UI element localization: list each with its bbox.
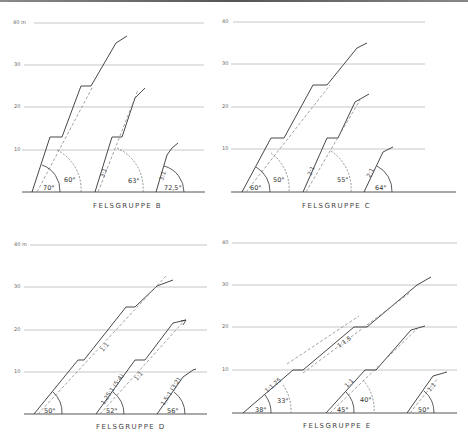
angle-label: 63° — [128, 177, 140, 185]
slope-ratio: 2:1 — [365, 167, 376, 179]
y-label-10: 10 — [14, 146, 20, 152]
angle-arc-dashed — [57, 150, 81, 192]
slope-profile — [303, 94, 369, 192]
panel-title: FELSGRUPPE C — [302, 202, 371, 210]
slope-diagram: 40 m 30 20 10 70° 60° 3:1 63° 3:1 72,5° … — [0, 0, 468, 446]
panel-title: FELSGRUPPE D — [96, 423, 166, 431]
y-label-10: 10 — [222, 145, 228, 151]
slope-ratio: 3:1 — [98, 167, 108, 179]
slope-profile — [32, 36, 127, 192]
angle-label-dashed: 33° — [277, 397, 289, 405]
angle-label: 50° — [418, 406, 430, 414]
y-label-40: 40 — [222, 239, 228, 245]
y-label-20: 20 — [222, 323, 228, 329]
angle-label: 60° — [250, 184, 262, 192]
slope-ratio: 3:1 — [157, 170, 167, 182]
y-label-40: 40 m — [13, 19, 26, 25]
slope-ratio: 1:1 — [343, 377, 355, 389]
y-label-10: 10 — [222, 366, 228, 372]
angle-label: 72,5° — [164, 184, 182, 192]
arrow-head-icon — [181, 320, 186, 325]
angle-label: 52° — [106, 407, 118, 415]
y-label-20: 20 — [222, 103, 228, 109]
slope-dashed-line — [306, 100, 360, 192]
slope-ratio-secondary: 1:1 — [132, 370, 144, 382]
slope-ratio: 1,5:1 (3:2) — [159, 376, 182, 407]
panel-c: 40 30 20 10 60° 50° 2:1 55° 2:1 64° FELS… — [222, 18, 456, 210]
y-label-30: 30 — [222, 281, 228, 287]
y-label-40: 40 — [222, 18, 228, 24]
angle-label: 64° — [375, 184, 387, 192]
angle-label: 38° — [255, 406, 267, 414]
panel-title: FELSGRUPPE B — [93, 202, 162, 210]
angle-arc-dashed — [271, 153, 289, 192]
slope-ratio: 1:1 — [98, 341, 110, 353]
y-label-10: 10 — [14, 368, 20, 374]
angle-arc-dashed — [331, 151, 351, 192]
slope-ratio-secondary: 1:1,5 — [336, 334, 353, 349]
angle-label: 56° — [167, 407, 179, 415]
panel-b: 40 m 30 20 10 70° 60° 3:1 63° 3:1 72,5° … — [13, 19, 205, 210]
y-label-20: 20 — [14, 103, 20, 109]
angle-label: 45° — [337, 406, 349, 414]
panel-d: 40 m 30 20 10 1:1 50° 1,25:1 (5:4) 1:1 5… — [14, 241, 207, 431]
slope-dashed-line — [246, 85, 330, 192]
y-label-30: 30 — [222, 60, 228, 66]
angle-arc-dashed — [117, 148, 143, 192]
y-label-30: 30 — [14, 283, 20, 289]
panel-e: 40 30 20 10 1:1,25 1:1,5 38° 33° 1:1 45°… — [222, 239, 457, 430]
slope-ratio: 1:1,25 — [263, 376, 282, 394]
panel-title: FELSGRUPPE E — [303, 422, 372, 430]
slope-profile — [242, 43, 367, 192]
y-label-40: 40 m — [14, 241, 27, 247]
angle-label: 50° — [44, 407, 56, 415]
y-label-20: 20 — [14, 326, 20, 332]
angle-label-dashed: 60° — [64, 176, 76, 184]
y-label-30: 30 — [14, 61, 20, 67]
angle-label: 55° — [337, 176, 349, 184]
angle-label-dashed: 40° — [360, 396, 372, 404]
slope-dashed-line — [100, 320, 185, 414]
angle-label-dashed: 50° — [273, 176, 285, 184]
slope-ratio: 1:1 — [425, 381, 437, 393]
angle-label: 70° — [43, 184, 55, 192]
